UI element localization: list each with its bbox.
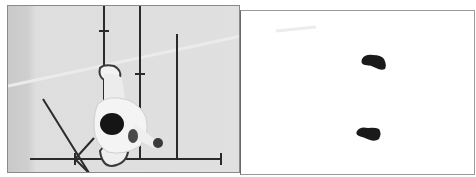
hand [153, 138, 163, 148]
floor-photo-panel [7, 5, 240, 173]
footprint-panel [240, 10, 475, 175]
head [100, 113, 124, 135]
arm-shadow [128, 129, 138, 143]
light-streak [8, 36, 240, 86]
upper-footprint-icon [361, 55, 385, 70]
lower-footprint-icon [356, 127, 380, 140]
footprints [241, 11, 476, 176]
diagonal-line [43, 99, 89, 173]
light-streak [276, 27, 316, 31]
diagonal-line [75, 138, 94, 159]
floor-markings [8, 6, 240, 173]
person-top-view [94, 65, 163, 166]
